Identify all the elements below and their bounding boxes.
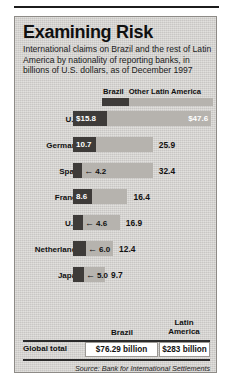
top-rule [14,6,219,8]
bar-stack: ←4.616.9 [73,215,120,230]
bar-value-other-latin-america: 32.4 [159,166,175,176]
totals-row-label: Global total [23,344,83,353]
bar-row: Spain←4.232.4 [15,161,216,187]
legend-swatch-brazil [102,98,129,106]
chart-subtitle: International claims on Brazil and the r… [23,44,213,76]
bar-segment-brazil [73,241,86,256]
totals-header-latin-line2: America [158,327,210,336]
bar-value-other-latin-america: 16.9 [126,218,142,228]
bar-stack: ←6.012.4 [73,241,113,256]
bar-value-brazil-text: 4.2 [95,167,106,176]
source-note: Source: Bank for International Settlemen… [23,364,210,373]
bar-value-brazil: ←4.2 [84,166,106,176]
bar-stack: 8.616.4 [73,189,128,204]
bar-value-brazil: 10.7 [76,140,92,149]
bar-segment-brazil [73,267,84,282]
bar-value-other-latin-america: 12.4 [119,244,135,254]
bar-value-brazil: ←5.0 [86,270,108,280]
bar-row: U.K.←4.616.9 [15,213,216,239]
legend-swatch-other-latin-america [129,98,213,106]
bar-stack: 10.725.9 [73,137,153,152]
leader-arrow-icon: ← [85,218,94,228]
bar-value-other-latin-america: 16.4 [134,192,150,202]
legend-label-brazil: Brazil [103,87,124,96]
bar-row: Japan←5.09.7 [15,265,216,291]
totals-header-latin-america: Latin America [158,318,210,336]
bar-segment-brazil [73,215,83,230]
bar-row: Netherlands←6.012.4 [15,239,216,265]
bar-value-brazil: ←4.6 [85,218,107,228]
bar-stack: $15.8$47.6 [73,111,211,126]
bar-row: France8.616.4 [15,187,216,213]
leader-arrow-icon: ← [84,166,93,176]
bar-value-brazil-text: 4.6 [96,219,107,228]
totals-header-latin-line1: Latin [158,318,210,327]
bar-stack: ←5.09.7 [73,267,105,282]
bar-value-other-latin-america: 25.9 [159,140,175,150]
chart-panel: Examining Risk International claims on B… [14,16,217,373]
bar-value-other-latin-america: 9.7 [111,270,123,280]
bar-value-brazil: ←6.0 [88,244,110,254]
bar-row: Germany10.725.9 [15,135,216,161]
bar-segment-other-latin-america [92,189,128,204]
leader-arrow-icon: ← [86,270,95,280]
infographic-page: Examining Risk International claims on B… [0,0,232,392]
bar-rows: U.S.$15.8$47.6Germany10.725.9Spain←4.232… [15,109,216,291]
bar-segment-other-latin-america [96,137,152,152]
legend-labels: BrazilOther Latin America [103,87,206,96]
chart-title: Examining Risk [23,22,153,43]
legend-label-other: Other Latin America [129,87,201,96]
bar-value-brazil: 8.6 [76,192,87,201]
bar-segment-brazil [73,163,82,178]
bar-row: U.S.$15.8$47.6 [15,109,216,135]
bar-value-other-latin-america: $47.6 [188,114,208,123]
totals-header-brazil: Brazil [86,328,158,337]
bar-value-brazil-text: 5.0 [97,271,108,280]
bar-stack: ←4.232.4 [73,163,153,178]
leader-arrow-icon: ← [88,244,97,254]
totals-value-brazil: $76.29 billion [85,342,158,357]
totals-value-latin-america: $283 billion [159,342,210,357]
bar-value-brazil-text: 6.0 [99,245,110,254]
bar-value-brazil: $15.8 [76,114,96,123]
totals-rule-bottom [23,359,210,361]
